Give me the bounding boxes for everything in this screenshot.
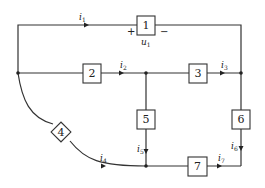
- arrow-i2-icon: [119, 71, 124, 76]
- element-7-label: 7: [194, 160, 201, 173]
- arrow-i7-icon: [217, 164, 222, 169]
- element-4: 4: [51, 122, 71, 142]
- label-i1: i1: [79, 12, 86, 23]
- element-5-label: 5: [143, 113, 150, 126]
- circuit-svg: 1 2 3 4 5 6 7 i1 i2 i3 i4 i5 i6: [0, 0, 265, 188]
- nodes: [16, 71, 243, 168]
- label-i5: i5: [137, 144, 144, 155]
- arrow-i3-icon: [220, 71, 225, 76]
- node-d: [144, 164, 148, 168]
- voltage-minus-sign: −: [160, 26, 168, 37]
- wire-branch-4-lower: [70, 141, 146, 166]
- current-labels: i1 i2 i3 i4 i5 i6 i7: [79, 12, 238, 164]
- element-1: 1: [137, 16, 155, 35]
- label-i4: i4: [100, 153, 107, 164]
- element-2-label: 2: [89, 67, 96, 80]
- voltage-plus-sign: +: [127, 26, 135, 37]
- label-i2: i2: [120, 60, 127, 71]
- circuit-diagram: 1 2 3 4 5 6 7 i1 i2 i3 i4 i5 i6: [0, 0, 265, 188]
- current-arrows: [84, 23, 244, 169]
- wires: [18, 25, 241, 166]
- element-3-label: 3: [195, 67, 202, 80]
- element-7: 7: [188, 157, 207, 176]
- label-i6: i6: [231, 141, 238, 152]
- element-1-label: 1: [143, 19, 150, 32]
- arrow-i1-icon: [84, 23, 89, 28]
- arrow-i4-icon: [101, 164, 106, 169]
- arrow-i5-icon: [144, 149, 149, 154]
- wire-top-loop: [18, 25, 241, 110]
- element-3: 3: [189, 64, 207, 83]
- element-4-label: 4: [58, 126, 65, 139]
- wire-branch-4-upper: [18, 73, 53, 124]
- arrow-i6-icon: [239, 146, 244, 151]
- node-b: [144, 71, 148, 75]
- element-6: 6: [232, 110, 250, 129]
- element-5: 5: [137, 110, 155, 129]
- label-i7: i7: [218, 153, 225, 164]
- label-i3: i3: [221, 60, 228, 71]
- label-u1: u1: [141, 37, 151, 48]
- node-a: [16, 71, 20, 75]
- node-c: [239, 71, 243, 75]
- element-6-label: 6: [238, 113, 245, 126]
- element-2: 2: [83, 64, 101, 83]
